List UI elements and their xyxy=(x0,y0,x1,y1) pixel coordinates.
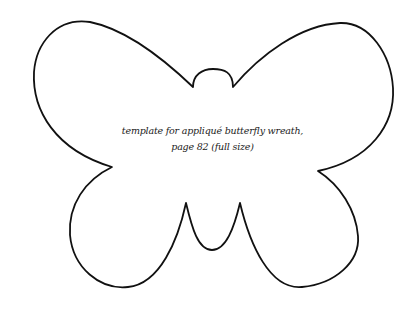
caption-line-2: page 82 (full size) xyxy=(0,139,411,155)
caption-line-1: template for appliqué butterfly wreath, xyxy=(0,123,411,139)
butterfly-outline xyxy=(0,0,411,312)
